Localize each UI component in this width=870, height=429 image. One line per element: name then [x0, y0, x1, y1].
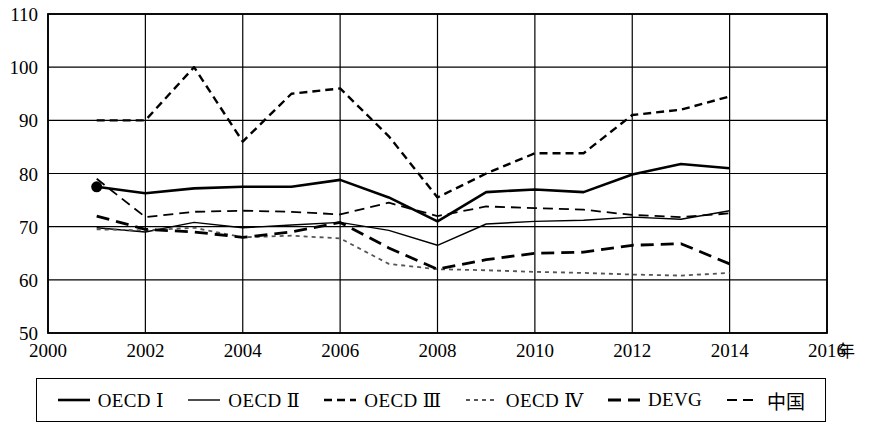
- y-tick-label: 90: [19, 110, 38, 131]
- legend-swatch-icon: [323, 394, 357, 406]
- legend-item-label: OECD Ⅱ: [228, 389, 300, 412]
- legend-item-label: OECD Ⅰ: [98, 389, 164, 412]
- y-tick-label: 60: [19, 270, 38, 291]
- legend-item-4: OECD Ⅳ: [465, 389, 584, 412]
- y-axis-tick-labels: 5060708090100110: [10, 4, 39, 344]
- x-tick-label: 2004: [224, 340, 263, 361]
- x-tick-label: 2010: [516, 340, 554, 361]
- legend-swatch-icon: [607, 394, 641, 406]
- x-tick-label: 2000: [29, 340, 67, 361]
- legend-swatch-icon: [187, 394, 221, 406]
- legend-item-label: OECD Ⅳ: [506, 389, 584, 412]
- x-tick-label: 2012: [613, 340, 651, 361]
- x-tick-label: 2008: [419, 340, 457, 361]
- line-chart: 5060708090100110 20002002200420062008201…: [0, 0, 870, 370]
- legend-swatch-icon: [465, 394, 499, 406]
- series-line-5: [97, 216, 730, 269]
- x-tick-label: 2006: [321, 340, 359, 361]
- chart-legend: OECD ⅠOECD ⅡOECD ⅢOECD ⅣDEVG中国: [36, 378, 826, 422]
- legend-item-label: 中国: [767, 387, 806, 414]
- x-axis-unit-label: 年: [838, 342, 855, 361]
- y-tick-label: 100: [10, 57, 39, 78]
- x-axis-tick-labels: 200020022004200620082010201220142016: [29, 340, 846, 361]
- series-line-3: [97, 67, 730, 197]
- series-line-4: [97, 228, 730, 276]
- series-start-markers: [91, 181, 102, 192]
- y-tick-label: 110: [10, 4, 38, 25]
- x-tick-label: 2002: [126, 340, 164, 361]
- legend-item-2: OECD Ⅱ: [187, 389, 300, 412]
- chart-page: 5060708090100110 20002002200420062008201…: [0, 0, 870, 429]
- x-tick-label: 2014: [711, 340, 750, 361]
- series-lines: [97, 67, 730, 275]
- series-line-1: [97, 164, 730, 221]
- series-line-6: [97, 179, 730, 217]
- legend-item-3: OECD Ⅲ: [323, 389, 441, 412]
- y-tick-label: 70: [19, 217, 38, 238]
- y-tick-label: 80: [19, 164, 38, 185]
- legend-item-5: DEVG: [607, 389, 702, 411]
- chart-canvas: 5060708090100110 20002002200420062008201…: [0, 0, 870, 370]
- legend-item-1: OECD Ⅰ: [57, 389, 164, 412]
- series-start-marker: [91, 181, 102, 192]
- series-line-2: [97, 211, 730, 246]
- gridlines: [48, 14, 827, 333]
- legend-item-label: OECD Ⅲ: [364, 389, 441, 412]
- legend-swatch-icon: [726, 394, 760, 406]
- legend-swatch-icon: [57, 394, 91, 406]
- legend-item-6: 中国: [726, 387, 806, 414]
- legend-item-label: DEVG: [648, 389, 702, 411]
